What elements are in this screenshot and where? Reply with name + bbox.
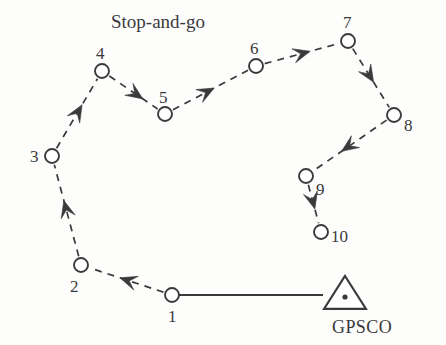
survey-point-5 [158, 107, 172, 121]
point-label-5: 5 [159, 89, 168, 106]
survey-point-4 [95, 64, 109, 78]
survey-point-1 [165, 288, 179, 302]
survey-point-9 [299, 169, 313, 183]
figure-title: Stop-and-go [111, 12, 205, 31]
direction-arrowheads [61, 49, 373, 290]
survey-point-8 [387, 108, 401, 122]
survey-point-2 [74, 258, 88, 272]
point-label-7: 7 [343, 14, 352, 31]
point-label-10: 10 [331, 228, 348, 245]
base-station-triangle [324, 276, 366, 309]
arrowhead-8-to-9 [342, 136, 360, 152]
arrowhead-7-to-8 [359, 64, 374, 82]
base-station-marker [324, 276, 366, 309]
traverse-drawing [0, 0, 446, 345]
point-label-2: 2 [70, 278, 79, 295]
survey-point-10 [314, 225, 328, 239]
point-label-8: 8 [404, 117, 413, 134]
base-station-center-dot [342, 294, 347, 299]
survey-point-circles [45, 34, 401, 302]
base-station-label: GPSCO [332, 318, 392, 336]
point-label-4: 4 [96, 45, 105, 62]
survey-point-7 [341, 34, 355, 48]
segment-2-to-3 [54, 165, 78, 257]
point-label-3: 3 [30, 148, 39, 165]
point-label-9: 9 [316, 181, 325, 198]
survey-point-3 [45, 149, 59, 163]
stop-and-go-traverse-figure: Stop-and-go 12345678910 GPSCO [0, 0, 446, 345]
point-label-1: 1 [168, 308, 177, 325]
arrowhead-5-to-6 [196, 88, 214, 102]
point-label-6: 6 [250, 40, 259, 57]
arrowhead-3-to-4 [67, 105, 82, 123]
survey-point-6 [249, 59, 263, 73]
dashed-path-segments [54, 43, 389, 292]
arrowhead-4-to-5 [125, 83, 143, 99]
segment-4-to-5 [109, 76, 157, 109]
